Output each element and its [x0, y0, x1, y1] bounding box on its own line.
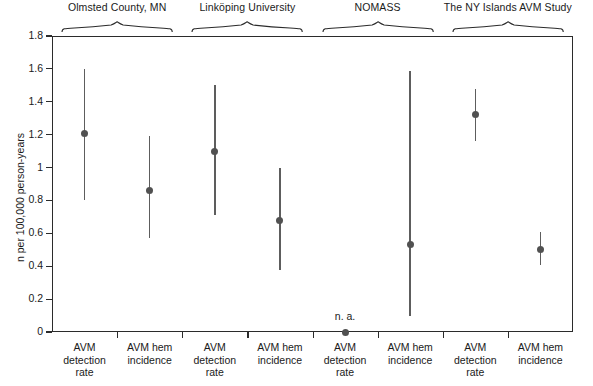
- group-header: The NY Islands AVM Study: [443, 0, 573, 36]
- x-axis-tick-mark: [313, 332, 314, 338]
- y-tick-mark: [46, 299, 52, 300]
- group-header-band: Olmsted County, MNLinköping UniversityNO…: [0, 0, 593, 36]
- x-axis-tick-mark: [182, 332, 183, 338]
- data-point-marker[interactable]: [342, 329, 349, 336]
- y-tick-label: 1.8: [28, 28, 43, 43]
- y-tick-mark: [46, 35, 52, 36]
- x-axis-category-label: AVM hemincidence: [502, 341, 578, 366]
- x-axis-tick-mark: [117, 332, 118, 338]
- y-tick-label: 1.6: [28, 61, 43, 76]
- group-header-label: Olmsted County, MN: [52, 1, 182, 14]
- y-tick-mark: [46, 134, 52, 135]
- error-bar: [409, 71, 411, 316]
- group-header: NOMASS: [313, 0, 443, 36]
- group-header-label: NOMASS: [313, 1, 443, 14]
- data-point-marker[interactable]: [81, 130, 88, 137]
- y-tick-label: 0: [37, 324, 43, 339]
- x-axis-tick-mark: [443, 332, 444, 338]
- group-brace-icon: [182, 21, 312, 33]
- x-axis-tick-mark: [247, 332, 248, 338]
- group-header: Linköping University: [182, 0, 312, 36]
- y-tick-label: 0.4: [28, 258, 43, 273]
- y-tick-mark: [46, 68, 52, 69]
- group-header-label: Linköping University: [182, 1, 312, 14]
- x-axis-category-label-line: AVM hem: [502, 341, 578, 354]
- y-tick-mark: [46, 167, 52, 168]
- x-axis-tick-mark: [508, 332, 509, 338]
- y-tick-label: 1.4: [28, 94, 43, 109]
- y-axis-title: n per 100,000 person-years: [14, 133, 26, 262]
- x-axis-tick-mark: [378, 332, 379, 338]
- x-axis-category-label-line: incidence: [502, 354, 578, 367]
- group-brace-icon: [443, 21, 573, 33]
- y-tick-mark: [46, 200, 52, 201]
- group-header-label: The NY Islands AVM Study: [443, 1, 573, 14]
- group-brace-icon: [52, 21, 182, 33]
- group-header: Olmsted County, MN: [52, 0, 182, 36]
- y-tick-label: 1.2: [28, 127, 43, 142]
- y-tick-label: 0.2: [28, 291, 43, 306]
- chart-figure: Olmsted County, MNLinköping UniversityNO…: [0, 0, 593, 386]
- y-tick-mark: [46, 266, 52, 267]
- group-brace-icon: [313, 21, 443, 33]
- x-axis-category-label-line: rate: [307, 366, 383, 379]
- plot-area: [52, 36, 573, 332]
- x-axis-category-label-line: rate: [437, 366, 513, 379]
- x-axis-category-label-line: rate: [177, 366, 253, 379]
- x-axis-category-label-line: rate: [47, 366, 123, 379]
- y-tick-mark: [46, 331, 52, 332]
- data-point-marker[interactable]: [211, 148, 218, 155]
- y-tick-mark: [46, 101, 52, 102]
- not-available-annotation: n. a.: [335, 310, 355, 322]
- y-tick-label: 0.8: [28, 192, 43, 207]
- y-tick-mark: [46, 233, 52, 234]
- y-tick-label: 1: [37, 160, 43, 175]
- y-tick-label: 0.6: [28, 225, 43, 240]
